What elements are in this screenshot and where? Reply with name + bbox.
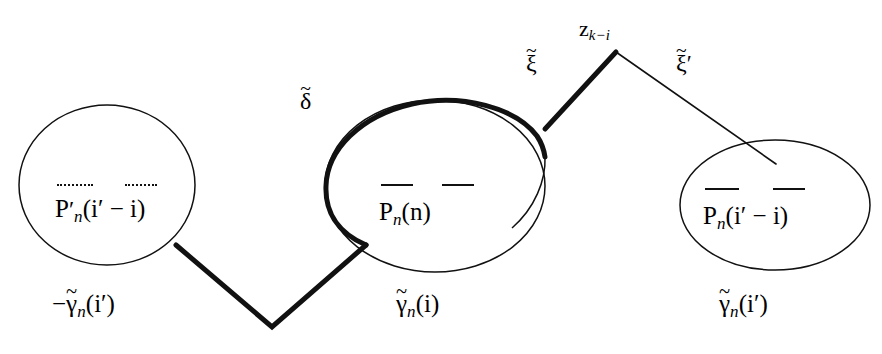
left-ellipse-label: P′n(i′ − i) [55,195,145,227]
middle-ellipse-right-thin-tail [512,157,545,228]
left-ellipse-outline [19,105,195,265]
right-label-sub: n [717,214,726,233]
xi-segment-path [545,52,616,129]
middle-ellipse-label: Pn(n) [379,198,431,230]
middle-label-solid-bar-1 [381,184,413,186]
delta-tilde-label: ~ δ [300,88,311,115]
right-label-args: (i′ − i) [726,202,789,229]
xi-tilde-label: ~ ξ [526,50,537,77]
left-gamma-accent: ~ [66,281,77,302]
middle-label-P: P [379,198,393,225]
left-label-P: P [55,195,69,222]
xi-tilde-accent: ~ [526,41,537,61]
left-gamma-label: − ~ γ n(i′) [52,290,115,322]
right-gamma-sub: n [730,302,739,321]
xi-prime-tilde-accent: ~ [676,41,687,61]
left-gamma-sub: n [77,302,86,321]
right-label-solid-bar-1 [705,188,739,190]
middle-label-solid-bar-2 [442,184,474,186]
middle-label-args: (n) [402,198,431,225]
delta-tilde-accent: ~ [300,79,311,99]
figure-canvas: P′n(i′ − i) Pn(n) Pn(i′ − i) ~ δ ~ ξ [0,0,882,354]
left-label-dotted-bar-1 [57,184,93,186]
middle-ellipse-thick-arc [326,100,545,245]
middle-label-sub: n [393,210,402,229]
left-label-dotted-bar-2 [125,184,157,186]
xi-tilde-prime-label: ~ ξ ′ [676,50,692,77]
middle-gamma-label: ~ γ n(i) [396,290,439,322]
right-gamma-args: (i′) [739,290,768,317]
right-gamma-label: ~ γ n(i′) [719,290,768,322]
middle-gamma-accent: ~ [396,281,407,302]
xi-prime-segment-path [616,52,776,164]
xi-prime-mark: ′ [687,51,692,76]
middle-gamma-args: (i) [416,290,440,317]
right-ellipse-label: Pn(i′ − i) [703,202,788,234]
left-gamma-args: (i′) [86,290,115,317]
left-label-args: (i′ − i) [83,195,146,222]
right-label-solid-bar-2 [773,188,805,190]
left-zigzag-path [176,245,366,327]
right-label-P: P [703,202,717,229]
z-base: z [579,16,589,41]
right-gamma-accent: ~ [719,281,730,302]
left-gamma-sign: − [52,290,66,317]
middle-gamma-sub: n [407,302,416,321]
z-subscript: k−i [589,27,610,43]
left-label-sub: n [74,207,83,226]
z-node-label: zk−i [579,16,610,44]
